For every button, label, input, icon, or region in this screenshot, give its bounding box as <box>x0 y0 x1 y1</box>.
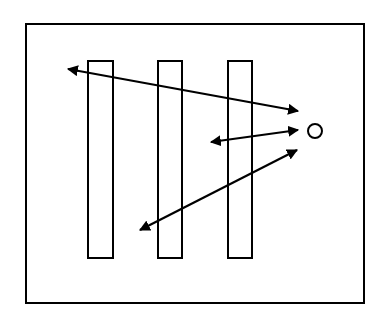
bar-3 <box>228 61 252 258</box>
bars-group <box>88 61 252 258</box>
bar-2 <box>158 61 182 258</box>
diagram-canvas <box>0 0 384 318</box>
arrow-bottom <box>140 150 297 230</box>
source-circle <box>308 124 322 138</box>
arrow-middle <box>211 130 298 142</box>
bar-1 <box>88 61 113 258</box>
outer-frame <box>26 24 364 303</box>
